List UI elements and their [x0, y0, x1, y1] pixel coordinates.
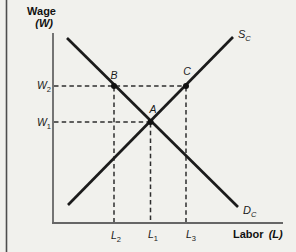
tick-label-l1: L1 — [141, 228, 165, 242]
x-axis-title: Labor (L) — [233, 228, 283, 240]
tick-label-w1: W1 — [23, 116, 51, 130]
point-c-dot — [183, 83, 189, 89]
point-b-label: B — [107, 69, 121, 81]
tick-label-l3: L3 — [179, 228, 203, 242]
point-c-label: C — [180, 65, 194, 77]
supply-demand-figure: Wage (W) Labor (L) W2 W1 L2 L1 L3 SC DC … — [0, 0, 296, 252]
tick-label-w2: W2 — [23, 79, 51, 93]
x-axis-title-symbol: (L) — [269, 228, 283, 240]
point-a-dot — [148, 119, 154, 125]
x-axis-title-word: Labor — [233, 228, 264, 240]
y-axis-title-word: Wage — [27, 5, 56, 17]
y-axis-title-symbol: (W) — [16, 18, 56, 30]
demand-curve-label: DC — [243, 204, 256, 218]
tick-label-l2: L2 — [104, 229, 128, 243]
y-axis-title: Wage (W) — [16, 6, 56, 29]
point-a-label: A — [146, 103, 160, 115]
supply-curve-label: SC — [238, 28, 251, 42]
point-b-dot — [111, 83, 117, 89]
